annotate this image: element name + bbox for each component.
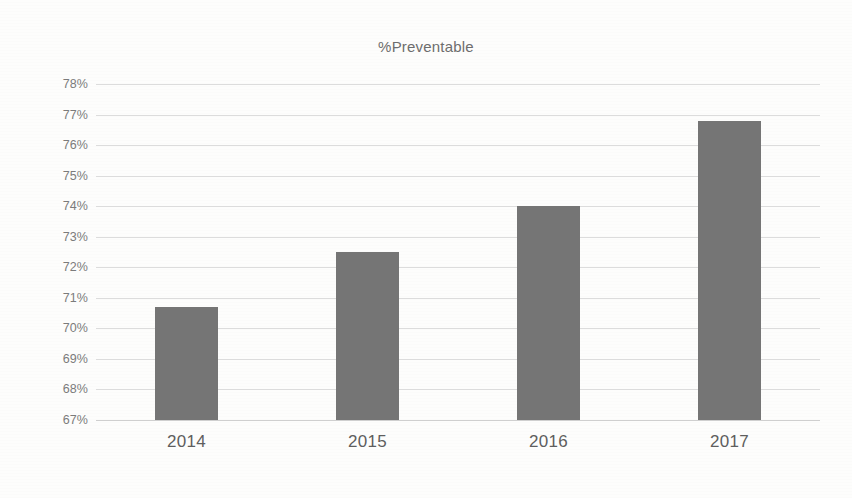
- x-axis-tick-label: 2015: [277, 432, 458, 452]
- y-axis-tick-label: 68%: [63, 382, 88, 396]
- x-axis: 2014201520162017: [96, 432, 820, 466]
- chart-title: %Preventable: [0, 38, 852, 55]
- y-axis-tick-label: 69%: [63, 352, 88, 366]
- y-axis: 78%77%76%75%74%73%72%71%70%69%68%67%: [40, 84, 88, 420]
- y-axis-tick-label: 73%: [63, 230, 88, 244]
- gridline: [96, 420, 820, 421]
- x-axis-tick-label: 2017: [639, 432, 820, 452]
- y-axis-tick-label: 67%: [63, 413, 88, 427]
- y-axis-tick-label: 74%: [63, 199, 88, 213]
- chart-page: %Preventable 78%77%76%75%74%73%72%71%70%…: [0, 0, 852, 498]
- y-axis-tick-label: 71%: [63, 291, 88, 305]
- bar-2015: [336, 252, 399, 420]
- y-axis-tick-label: 70%: [63, 321, 88, 335]
- y-axis-tick-label: 78%: [63, 77, 88, 91]
- y-axis-tick-label: 76%: [63, 138, 88, 152]
- x-axis-tick-label: 2014: [96, 432, 277, 452]
- y-axis-tick-label: 77%: [63, 108, 88, 122]
- y-axis-tick-label: 72%: [63, 260, 88, 274]
- bar-2017: [698, 121, 761, 420]
- bar-2014: [155, 307, 218, 420]
- bar-series: [96, 84, 820, 420]
- bar-2016: [517, 206, 580, 420]
- x-axis-tick-label: 2016: [458, 432, 639, 452]
- y-axis-tick-label: 75%: [63, 169, 88, 183]
